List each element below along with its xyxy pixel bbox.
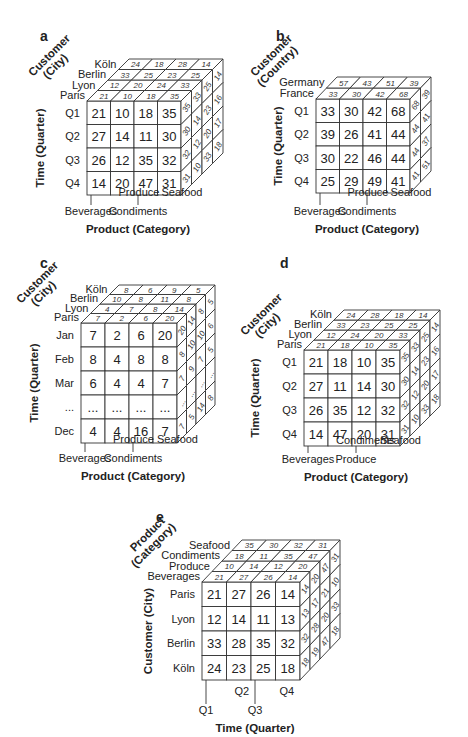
svg-text:35: 35 xyxy=(162,106,176,121)
svg-text:10: 10 xyxy=(365,341,374,350)
front-cell: 28 xyxy=(227,631,252,656)
front-cell: 6 xyxy=(81,371,105,395)
svg-text:4: 4 xyxy=(113,376,120,391)
svg-text:41: 41 xyxy=(368,127,382,142)
svg-text:28: 28 xyxy=(177,60,187,69)
front-cell: ... xyxy=(105,395,129,419)
svg-text:42: 42 xyxy=(376,90,385,99)
svg-text:27: 27 xyxy=(92,129,106,144)
svg-text:24: 24 xyxy=(156,81,166,90)
front-cell: 11 xyxy=(328,374,352,398)
svg-text:27: 27 xyxy=(232,587,246,602)
svg-text:18: 18 xyxy=(341,341,350,350)
front-cell: 35 xyxy=(134,148,158,172)
svg-text:11: 11 xyxy=(333,379,347,394)
front-cell: ... xyxy=(129,395,153,419)
row-axis-title: Time (Quarter) xyxy=(34,108,46,187)
svg-text:7: 7 xyxy=(129,305,134,314)
depth-label: Germany xyxy=(279,76,325,88)
svg-text:12: 12 xyxy=(207,612,221,627)
svg-text:13: 13 xyxy=(281,612,295,627)
svg-text:25: 25 xyxy=(256,661,270,676)
svg-text:25: 25 xyxy=(408,321,418,330)
front-cell: 35 xyxy=(376,350,400,374)
svg-text:57: 57 xyxy=(339,79,348,88)
svg-text:14: 14 xyxy=(419,311,428,320)
svg-text:21: 21 xyxy=(99,92,109,101)
front-cell: 4 xyxy=(105,347,129,371)
row-axis-title: Time (Quarter) xyxy=(28,343,40,422)
svg-text:8: 8 xyxy=(161,352,168,367)
svg-text:33: 33 xyxy=(321,104,335,119)
svg-text:30: 30 xyxy=(344,104,358,119)
svg-text:23: 23 xyxy=(232,661,246,676)
svg-text:35: 35 xyxy=(284,552,293,561)
svg-text:18: 18 xyxy=(155,60,164,69)
column-label: Q4 xyxy=(280,685,295,697)
svg-text:26: 26 xyxy=(256,587,270,602)
svg-text:14: 14 xyxy=(309,427,323,442)
depth-label: Köln xyxy=(85,283,107,295)
front-cell: 14 xyxy=(227,607,252,632)
front-cell: 7 xyxy=(153,371,177,395)
svg-text:23: 23 xyxy=(167,71,177,80)
svg-text:8: 8 xyxy=(89,352,96,367)
svg-text:4: 4 xyxy=(105,305,110,314)
column-axis-title: Product (Category) xyxy=(81,470,185,482)
front-cell: 41 xyxy=(363,123,387,147)
front-cell: 12 xyxy=(352,398,376,422)
svg-text:6: 6 xyxy=(89,376,96,391)
front-cell: 11 xyxy=(134,125,158,149)
panel-letter: b xyxy=(276,28,285,44)
svg-text:14: 14 xyxy=(202,60,211,69)
column-axis-title: Product (Category) xyxy=(315,223,419,235)
panel-letter: d xyxy=(280,255,289,271)
svg-text:35: 35 xyxy=(256,636,270,651)
svg-text:24: 24 xyxy=(346,311,356,320)
row-label: Q3 xyxy=(65,154,80,166)
svg-text:21: 21 xyxy=(316,341,326,350)
svg-text:12: 12 xyxy=(110,81,119,90)
svg-text:35: 35 xyxy=(245,541,254,550)
svg-text:14: 14 xyxy=(249,562,258,571)
front-cell: 46 xyxy=(363,146,387,170)
front-cell: 14 xyxy=(276,582,301,607)
front-cell: 20 xyxy=(153,323,177,347)
row-axis-title: Customer (City) xyxy=(142,588,154,674)
svg-text:12: 12 xyxy=(357,403,371,418)
front-cell: 14 xyxy=(111,125,135,149)
front-cell: 7 xyxy=(81,323,105,347)
svg-text:32: 32 xyxy=(381,403,395,418)
svg-text:5: 5 xyxy=(196,286,201,295)
svg-text:30: 30 xyxy=(381,379,395,394)
front-cell: 13 xyxy=(276,607,301,632)
svg-text:28: 28 xyxy=(370,311,380,320)
front-cell: 32 xyxy=(276,631,301,656)
front-cell: 30 xyxy=(158,125,182,149)
cube-diagram: 2110183527141130261235321420473121101835… xyxy=(0,0,234,250)
svg-text:47: 47 xyxy=(308,552,317,561)
front-cell: 44 xyxy=(387,123,411,147)
svg-text:35: 35 xyxy=(381,355,395,370)
front-cell: 21 xyxy=(87,101,111,125)
svg-text:25: 25 xyxy=(190,71,200,80)
row-label: Köln xyxy=(173,662,195,674)
svg-text:4: 4 xyxy=(113,352,120,367)
svg-text:30: 30 xyxy=(269,541,278,550)
svg-text:...: ... xyxy=(88,400,99,415)
svg-text:24: 24 xyxy=(350,331,360,340)
svg-text:26: 26 xyxy=(309,403,323,418)
svg-text:33: 33 xyxy=(181,81,190,90)
svg-text:26: 26 xyxy=(92,153,106,168)
depth-label: France xyxy=(280,87,314,99)
svg-text:31: 31 xyxy=(318,541,327,550)
front-cell: 12 xyxy=(202,607,227,632)
svg-text:18: 18 xyxy=(281,661,295,676)
front-cell: 33 xyxy=(202,631,227,656)
front-cell: 2 xyxy=(105,323,129,347)
front-cell: 4 xyxy=(105,371,129,395)
column-label: Produce xyxy=(348,186,389,198)
svg-text:20: 20 xyxy=(164,314,174,323)
svg-text:35: 35 xyxy=(170,92,179,101)
column-label: Seafood xyxy=(380,434,421,446)
